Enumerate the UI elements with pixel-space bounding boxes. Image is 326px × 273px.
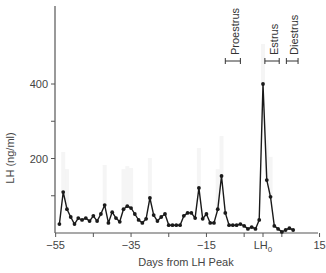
data-point — [276, 227, 280, 231]
data-point — [148, 196, 152, 200]
stage-label: Diestrus — [288, 14, 300, 55]
data-point — [231, 223, 235, 227]
x-axis-ticks: −55−35−15LH015 — [46, 233, 325, 254]
data-point — [227, 223, 231, 227]
data-point — [107, 221, 111, 225]
data-point — [156, 219, 160, 223]
data-point — [197, 186, 201, 190]
data-point — [178, 223, 182, 227]
data-point — [73, 222, 77, 226]
lh-series-line — [59, 84, 293, 232]
data-point — [171, 223, 175, 227]
stage-estrus: Estrus — [265, 23, 280, 64]
faint-range-shading — [61, 44, 272, 209]
data-point — [201, 217, 205, 221]
data-point — [65, 207, 69, 211]
data-point — [118, 220, 122, 224]
data-point — [287, 226, 291, 230]
lh-chart: 200400 −55−35−15LH015 Days from LH Peak … — [0, 0, 326, 273]
x-axis-title: Days from LH Peak — [138, 256, 234, 268]
data-point — [91, 214, 95, 218]
data-point — [99, 212, 103, 216]
data-point — [95, 219, 99, 223]
y-axis-ticks: 200400 — [30, 78, 55, 196]
data-point — [269, 195, 273, 199]
data-point — [140, 221, 144, 225]
stage-label: Proestrus — [229, 7, 241, 55]
stage-label: Estrus — [268, 23, 280, 55]
data-point — [80, 218, 84, 222]
data-point — [58, 222, 62, 226]
data-point — [220, 174, 224, 178]
stage-diestrus: Diestrus — [286, 14, 300, 64]
x-tick-label: LH0 — [254, 239, 273, 254]
data-point — [216, 207, 220, 211]
data-point — [174, 223, 178, 227]
data-point — [163, 212, 167, 216]
data-point — [133, 212, 137, 216]
data-point — [122, 207, 126, 211]
data-point — [272, 224, 276, 228]
data-point — [114, 216, 118, 220]
stage-proestrus: Proestrus — [225, 7, 241, 64]
data-point — [61, 190, 65, 194]
data-point — [193, 216, 197, 220]
data-point — [261, 82, 265, 86]
y-axis-title: LH (ng/ml) — [4, 132, 16, 183]
data-point — [212, 221, 216, 225]
data-point — [167, 223, 171, 227]
y-tick-label: 400 — [30, 78, 48, 90]
data-point — [125, 204, 129, 208]
x-tick-label: 15 — [313, 239, 325, 251]
data-point — [76, 216, 80, 220]
data-point — [254, 227, 258, 231]
data-point — [284, 228, 288, 232]
data-point — [291, 228, 295, 232]
x-tick-label: −15 — [197, 239, 216, 251]
data-point — [280, 230, 284, 234]
data-point — [152, 213, 156, 217]
data-point — [186, 211, 190, 215]
data-point — [265, 178, 269, 182]
data-point — [110, 210, 114, 214]
data-point — [238, 222, 242, 226]
data-point — [129, 206, 133, 210]
data-point — [235, 223, 239, 227]
data-point — [84, 216, 88, 220]
data-point — [144, 217, 148, 221]
data-point — [103, 203, 107, 207]
data-point — [189, 211, 193, 215]
data-point — [69, 215, 73, 219]
data-point — [208, 221, 212, 225]
data-point — [205, 212, 209, 216]
y-tick-label: 200 — [30, 153, 48, 165]
data-point — [88, 219, 92, 223]
data-point — [182, 214, 186, 218]
x-tick-label: −55 — [46, 239, 65, 251]
data-point — [159, 215, 163, 219]
data-point — [250, 225, 254, 229]
data-point — [223, 211, 227, 215]
data-point — [246, 227, 250, 231]
x-tick-label: −35 — [122, 239, 141, 251]
data-point — [242, 224, 246, 228]
data-point — [137, 218, 141, 222]
data-point — [257, 218, 261, 222]
